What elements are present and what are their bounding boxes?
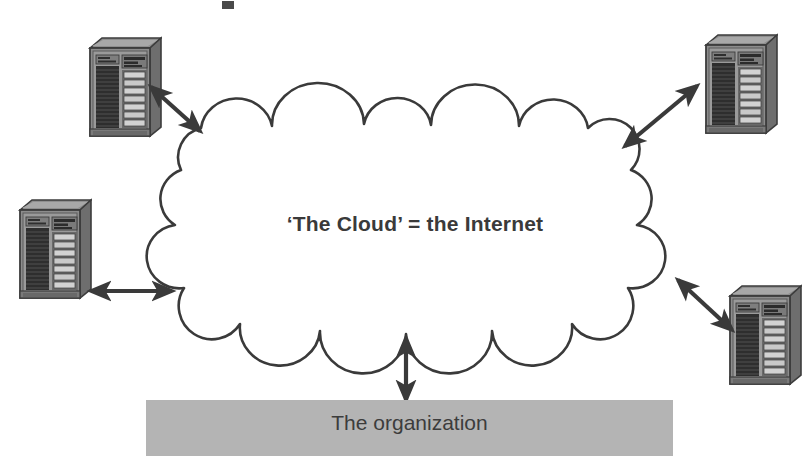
diagram-canvas: ‘The Cloud’ = the Internet The organizat… [0,0,809,472]
server-top-right [706,35,777,133]
cloud-network-diagram [0,0,809,472]
cloud-label: ‘The Cloud’ = the Internet [180,212,650,236]
organization-label: The organization [146,411,673,435]
server-top-left [90,38,161,136]
server-bottom-right [730,286,801,384]
server-middle-left [20,200,91,298]
connector-top-right [625,86,697,146]
connector-bottom-right [678,280,732,330]
